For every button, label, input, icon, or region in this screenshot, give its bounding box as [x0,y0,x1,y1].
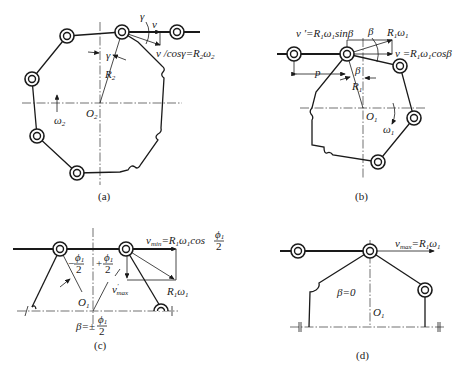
plus-sign: + [96,257,102,269]
roller [30,129,44,143]
roller [340,47,354,61]
beta-arrow-left [340,77,350,80]
panel-b: v '=R1ω1sinβ β R1ω1 v =R1ω1cosβ p β R1 O… [277,25,452,203]
two-left: 2 [76,263,82,275]
sprocket-edge-right [126,249,160,306]
beta-label-mid: β [354,64,361,76]
angle-tick-right [115,269,120,276]
center-label: O2 [86,107,98,121]
roller [287,47,301,61]
caption-c: (c) [94,339,107,352]
panel-d: vmax=R1ω1 β=0 O1 (d) [280,237,445,362]
center-label: O1 [366,110,377,124]
radius-label: R1 [351,80,362,94]
vmax-label: vmax=R1ω1 [395,237,441,251]
roller [25,72,39,86]
beta-two: 2 [99,325,105,337]
roller [119,242,133,256]
beta-equation: β=± [75,320,95,332]
gamma-arrow-left [88,52,99,53]
pitch-label: p [314,66,321,78]
roller-half-inner [158,308,165,312]
roller [70,166,84,180]
center-label: O1 [373,306,384,320]
center-label: O1 [78,296,89,310]
omega1-arrow [392,103,395,124]
beta-label-top: β [367,25,374,37]
r1w1-arrow [126,249,174,279]
roller [53,242,67,256]
caption-a: (a) [98,190,111,203]
roller [363,244,377,258]
tooth-notch [32,306,36,309]
vprime-label: v '=R1ω1sinβ [296,27,354,41]
angle-arrow-left [60,279,70,287]
sprocket-edge-right [370,251,425,287]
roller [407,111,421,125]
omega-label: ω2 [54,114,66,128]
two-right: 2 [105,263,111,275]
roller [393,59,407,73]
gamma-label-mid: γ [106,49,111,61]
roller [371,155,385,169]
caption-b: (b) [355,190,368,203]
gamma-arrow-right [113,55,126,60]
vmin-two: 2 [216,240,222,252]
omega-label: ω1 [383,123,394,137]
roller [170,25,184,39]
vmin-label: vmin=R1ω1cos [146,234,205,248]
roller [60,29,74,43]
r1w1-label: R1ω1 [386,26,409,40]
v-equation-label: v =R1ω1cosβ [395,47,452,61]
vmax-prime-label: v'max [112,282,129,297]
gamma-label-top: γ [140,10,145,22]
beta-zero-label: β=0 [336,286,356,298]
sprocket-edge-left [32,249,60,307]
minus-sign: − [68,257,74,269]
v-label: v [152,18,157,30]
roller [291,244,305,258]
panel-c: vmin=R1ω1cos ϕ1 2 − ϕ1 2 + ϕ1 2 v'max R1… [13,228,224,352]
panel-a: γ v v /cosγ=R2ω2 γ R2 O2 ω2 (a) [22,10,215,203]
chain-drive-kinematics-figure: γ v v /cosγ=R2ω2 γ R2 O2 ω2 (a) [0,0,461,365]
roller [418,283,432,297]
roller [115,25,129,39]
caption-d: (d) [356,349,369,362]
beta-arc-top [372,38,378,62]
radius-label: R2 [104,68,116,82]
radius-right [93,282,108,311]
relation-label: v /cosγ=R2ω2 [156,47,215,61]
r1w1-label: R1ω1 [166,285,189,299]
